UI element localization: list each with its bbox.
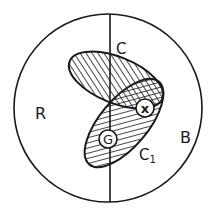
point-x-label: x: [141, 101, 150, 116]
set-c1-label-subscript: 1: [149, 154, 155, 165]
region-b-label: B: [180, 128, 191, 147]
diagram-canvas: x G C R B C1: [0, 0, 214, 216]
point-g-label: G: [103, 132, 113, 147]
venn-diagram: x G C R B C1: [0, 0, 214, 216]
set-c1-label: C1: [139, 146, 156, 165]
set-c1-label-main: C: [139, 146, 149, 164]
region-r-label: R: [35, 104, 46, 123]
set-c-label: C: [116, 40, 126, 58]
